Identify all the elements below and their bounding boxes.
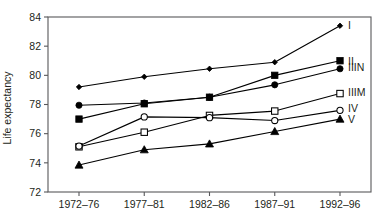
data-point-IIIM-4 — [337, 90, 343, 96]
legend-label-V: V — [348, 113, 355, 125]
data-point-IIIN-0 — [76, 102, 82, 108]
x-tick-label: 1987–91 — [254, 198, 295, 210]
y-tick-label: 76 — [29, 127, 41, 139]
y-tick-label: 78 — [29, 98, 41, 110]
data-point-II-4 — [337, 58, 343, 64]
data-point-IV-2 — [206, 115, 212, 121]
x-tick-label: 1982–86 — [189, 198, 230, 210]
data-point-IIIN-2 — [206, 94, 212, 100]
data-point-IIIN-4 — [337, 66, 343, 72]
y-tick-label: 82 — [29, 40, 41, 52]
y-tick-label: 80 — [29, 69, 41, 81]
chart-canvas: 72747678808284 1972–761977–811982–861987… — [0, 0, 388, 224]
data-point-II-0 — [76, 116, 82, 122]
data-point-IIIN-3 — [272, 82, 278, 88]
data-point-IIIM-1 — [141, 129, 147, 135]
data-point-II-3 — [272, 72, 278, 78]
data-point-IV-4 — [337, 107, 343, 113]
x-tick-label: 1977–81 — [124, 198, 165, 210]
data-point-IV-1 — [141, 114, 147, 120]
y-tick-label: 74 — [29, 157, 41, 169]
legend-label-IIIN: IIIN — [348, 61, 364, 73]
life-expectancy-line-chart: 72747678808284 1972–761977–811982–861987… — [0, 0, 388, 224]
y-tick-label: 72 — [29, 186, 41, 198]
data-point-IV-0 — [76, 143, 82, 149]
x-tick-label: 1972–76 — [59, 198, 100, 210]
legend-label-IIIM: IIIM — [348, 86, 366, 98]
x-tick-label: 1992–96 — [320, 198, 361, 210]
y-axis-title: Life expectancy — [1, 71, 13, 145]
data-point-IV-3 — [272, 117, 278, 123]
legend-label-IV: IV — [348, 102, 358, 114]
legend-label-I: I — [348, 19, 351, 31]
y-tick-label: 84 — [29, 11, 41, 23]
data-point-IIIM-3 — [272, 108, 278, 114]
data-point-IIIN-1 — [141, 100, 147, 106]
